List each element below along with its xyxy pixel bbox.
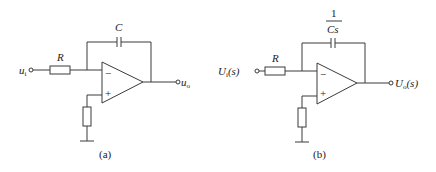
resistor-icon [50, 66, 70, 74]
noninverting-input-sign: + [105, 87, 111, 99]
input-label: ui [19, 64, 27, 78]
output-terminal-icon [176, 80, 180, 84]
output-label: uo [181, 76, 191, 90]
input-label: Ui(s) [218, 65, 240, 79]
resistor-label: R [56, 51, 64, 63]
inverting-input-sign: − [105, 67, 111, 79]
circuit-b: Ui(s) R 1 Cs − + Uo(s) (b) [218, 7, 418, 161]
ground-resistor-icon [298, 108, 306, 127]
noninverting-input-sign: + [320, 87, 326, 99]
capacitor-label-numerator: 1 [331, 7, 337, 19]
caption-a: (a) [99, 148, 112, 161]
output-terminal-icon [389, 81, 393, 85]
resistor-icon [265, 67, 285, 75]
capacitor-label: C [115, 21, 123, 33]
input-terminal-icon [255, 69, 259, 73]
resistor-label: R [271, 52, 279, 64]
circuit-a: ui R C − + uo (a) [19, 21, 191, 161]
ground-resistor-icon [83, 107, 91, 126]
inverting-input-sign: − [320, 68, 326, 80]
input-terminal-icon [29, 68, 33, 72]
circuit-diagram: ui R C − + uo (a) Ui(s) [0, 0, 436, 172]
output-label: Uo(s) [395, 77, 418, 91]
caption-b: (b) [313, 148, 326, 161]
capacitor-label-denominator: Cs [327, 23, 339, 35]
